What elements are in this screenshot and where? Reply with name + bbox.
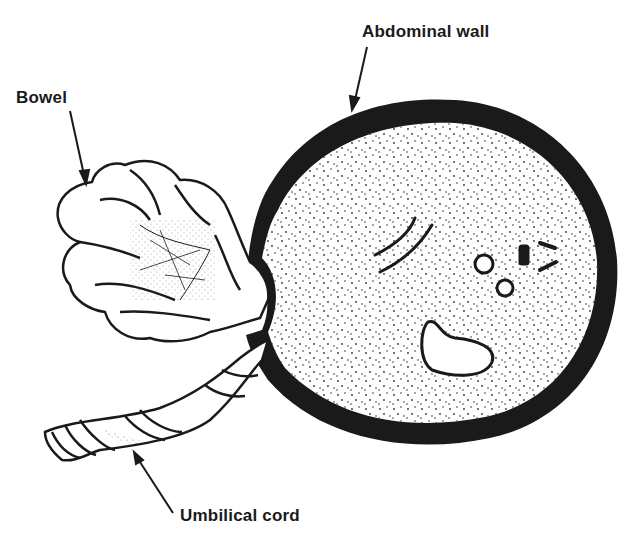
abdominal-wall-arrow: [355, 47, 367, 100]
umbilical-cord-label: Umbilical cord: [180, 506, 300, 526]
umbilical-cord-arrow: [138, 459, 173, 513]
bowel: [58, 161, 269, 341]
bowel-label: Bowel: [16, 88, 67, 108]
abdomen: [246, 99, 617, 444]
abdominal-wall-label: Abdominal wall: [362, 22, 489, 42]
bowel-arrow: [70, 111, 84, 175]
diagram-canvas: [0, 0, 642, 546]
umbilical-cord: [45, 340, 268, 460]
